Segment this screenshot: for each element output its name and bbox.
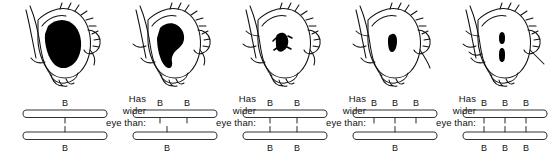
fly-eye-wild-type-drawing: [12, 0, 122, 90]
panel-5: B B B B B B: [452, 0, 560, 159]
gene-label-bottom: B: [267, 143, 273, 153]
gene-label-bottom: B: [164, 143, 170, 153]
gene-label-bottom: B: [502, 143, 508, 153]
gene-label-top: B: [371, 98, 377, 108]
gene-label-top: B: [392, 98, 398, 108]
gene-label-bottom: B: [523, 143, 529, 153]
gene-label-top: B: [502, 98, 508, 108]
gene-label-bottom: B: [392, 143, 398, 153]
gene-label-top: B: [294, 98, 300, 108]
gene-label-top: B: [413, 98, 419, 108]
gene-label-bottom: B: [294, 143, 300, 153]
fly-eye-double-bar-drawing: [342, 0, 452, 90]
gene-label-top: B: [62, 98, 68, 108]
fly-eye-bar-homozygous-drawing: [232, 0, 342, 90]
chromosome-pair-5: B B B B B B: [457, 96, 557, 154]
panel-2: B B B: [122, 0, 232, 159]
gene-label-top: B: [157, 98, 163, 108]
gene-label-bottom: B: [481, 143, 487, 153]
gene-label-top: B: [481, 98, 487, 108]
bar-eye-figure: B B Has wider eye than:: [0, 0, 560, 159]
gene-label-top: B: [523, 98, 529, 108]
gene-label-top: B: [184, 98, 190, 108]
fly-eye-double-bar-homozygous-drawing: [452, 0, 560, 90]
fly-eye-bar-drawing: [122, 0, 232, 90]
gene-label-bottom: B: [62, 143, 68, 153]
panel-4: B B B B: [342, 0, 452, 159]
panel-3: B B B B: [232, 0, 342, 159]
gene-label-top: B: [267, 98, 273, 108]
panel-1: B B: [12, 0, 122, 159]
